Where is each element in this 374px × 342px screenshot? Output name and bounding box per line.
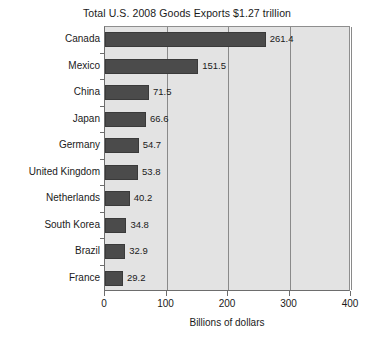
bar-row: 53.8 [105,160,349,187]
bar-row: 261.4 [105,27,349,54]
category-label-united-kingdom: United Kingdom [2,165,100,178]
bar-brazil [105,244,125,259]
x-axis-tick-label-0: 0 [101,298,107,309]
bar-row: 151.5 [105,54,349,81]
category-label-canada: Canada [2,32,100,45]
x-axis-tick-400 [350,291,351,296]
category-label-france: France [2,271,100,284]
x-axis-tick-200 [227,291,228,296]
bar-row: 40.2 [105,186,349,213]
bar-row: 34.8 [105,213,349,240]
y-axis-category-labels: CanadaMexicoChinaJapanGermanyUnited King… [0,26,100,291]
category-label-china: China [2,85,100,98]
bar-row: 32.9 [105,239,349,266]
bar-value-label: 40.2 [134,190,153,206]
bar-row: 54.7 [105,133,349,160]
x-axis-tick-label-100: 100 [157,298,174,309]
category-label-japan: Japan [2,112,100,125]
category-label-brazil: Brazil [2,244,100,257]
bar-united-kingdom [105,165,138,180]
bar-netherlands [105,191,130,206]
bar-mexico [105,59,198,74]
x-axis-tick-label-400: 400 [342,298,359,309]
bar-france [105,271,123,286]
category-label-netherlands: Netherlands [2,191,100,204]
bar-canada [105,32,266,47]
bar-value-label: 261.4 [270,31,294,47]
bar-value-label: 29.2 [127,270,146,286]
bar-japan [105,112,146,127]
x-axis-tick-300 [289,291,290,296]
x-axis-tick-labels: 0100200300400 [0,298,374,312]
x-axis-tick-0 [104,291,105,296]
bar-germany [105,138,139,153]
bar-value-label: 32.9 [129,243,148,259]
x-axis-tick-label-200: 200 [219,298,236,309]
bar-value-label: 71.5 [153,84,172,100]
category-label-mexico: Mexico [2,59,100,72]
bar-value-label: 54.7 [143,137,162,153]
plot-area: 261.4151.571.566.654.753.840.234.832.929… [104,26,350,291]
x-axis-title: Billions of dollars [104,317,350,328]
category-label-south-korea: South Korea [2,218,100,231]
bar-south-korea [105,218,126,233]
bar-china [105,85,149,100]
x-axis-tick-label-300: 300 [280,298,297,309]
category-label-germany: Germany [2,138,100,151]
bar-value-label: 34.8 [130,217,149,233]
chart-figure: Total U.S. 2008 Goods Exports $1.27 tril… [0,0,374,342]
gridline-400 [351,27,352,290]
x-axis-tick-100 [166,291,167,296]
bar-row: 71.5 [105,80,349,107]
bar-value-label: 151.5 [202,58,226,74]
x-axis-ticks [104,291,351,297]
chart-title: Total U.S. 2008 Goods Exports $1.27 tril… [0,7,374,19]
bar-value-label: 53.8 [142,164,161,180]
bar-row: 29.2 [105,266,349,293]
bar-row: 66.6 [105,107,349,134]
bar-value-label: 66.6 [150,111,169,127]
